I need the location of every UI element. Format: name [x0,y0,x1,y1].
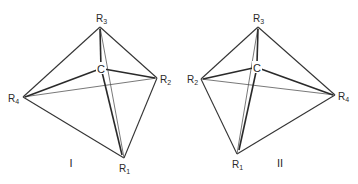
edge-r4-r1 [237,95,335,154]
edge-r3-r4 [258,27,335,95]
edge-r2-r1 [124,78,157,158]
structure-label-I: I [69,157,72,169]
center-carbon-label: C [97,63,105,75]
label-r4: R4 [338,91,349,103]
edge-r2-r4 [201,79,335,95]
label-r2: R2 [187,74,198,86]
label-r2: R2 [160,74,171,86]
bond-c-r4 [25,70,97,97]
label-r3: R3 [96,13,107,25]
edge-r2-r1 [201,79,237,154]
label-r4: R4 [8,93,19,105]
edge-r3-r1 [100,27,124,158]
label-r3: R3 [253,13,264,25]
edge-r3-r4 [23,27,100,97]
bond-c-r3 [257,29,258,63]
edge-r4-r2 [23,78,157,97]
structure-I: C R3 R2 R4 R1 I [8,13,171,175]
label-r1: R1 [119,163,130,175]
edge-r4-r1 [23,97,124,158]
bond-c-r2 [104,69,155,78]
edge-r3-r2 [201,27,258,79]
bond-c-r4 [261,69,333,95]
label-r1: R1 [232,159,243,171]
structure-II: C R3 R2 R4 R1 II [187,13,349,171]
tetrahedral-carbon-diagram: C R3 R2 R4 R1 I C R3 R2 R4 R1 II [0,0,358,184]
center-carbon-label: C [253,62,261,74]
edge-r3-r1 [237,27,258,154]
structure-label-II: II [277,157,283,169]
